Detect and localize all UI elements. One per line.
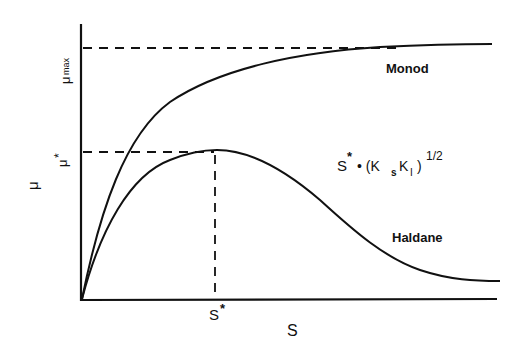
kinetics-chart: μ μ max μ * S * S Monod Haldane S * • (K… xyxy=(0,0,530,361)
svg-text:I: I xyxy=(410,167,413,178)
svg-text:1/2: 1/2 xyxy=(426,149,443,163)
haldane-curve xyxy=(82,150,500,299)
monod-label: Monod xyxy=(386,61,429,76)
mu-star-tick-label: μ * xyxy=(52,153,70,167)
x-axis-label: S xyxy=(287,322,298,339)
svg-text:K: K xyxy=(399,158,409,174)
haldane-label: Haldane xyxy=(392,230,443,245)
svg-text:μ: μ xyxy=(58,77,73,85)
mu-max-tick-label: μ max xyxy=(58,57,73,84)
y-axis-label: μ xyxy=(24,181,41,190)
svg-text:*: * xyxy=(347,149,353,164)
svg-text:μ: μ xyxy=(55,160,70,168)
x-axis xyxy=(80,299,497,300)
svg-text:μ: μ xyxy=(24,181,41,190)
svg-text:*: * xyxy=(220,301,226,316)
monod-curve xyxy=(82,44,492,299)
svg-text:*: * xyxy=(52,153,66,158)
svg-text:s: s xyxy=(391,167,397,178)
svg-text:): ) xyxy=(417,158,422,174)
svg-text:• (K: • (K xyxy=(357,158,380,174)
s-star-tick-label: S * xyxy=(209,301,226,323)
svg-text:S: S xyxy=(337,157,347,174)
s-star-formula: S * • (K s K I ) 1/2 xyxy=(337,149,443,178)
svg-text:S: S xyxy=(209,306,219,323)
svg-text:max: max xyxy=(61,57,71,75)
